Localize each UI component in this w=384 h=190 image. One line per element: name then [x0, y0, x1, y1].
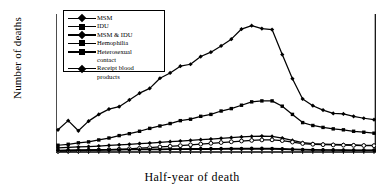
legend-item: IDU	[67, 22, 161, 30]
legend-item: MSM & IDU	[67, 31, 161, 39]
legend-marker-icon	[67, 14, 97, 22]
chart-figure: Number of deaths 02,0004,0006,0008,00010…	[0, 0, 384, 190]
series-idu	[56, 99, 375, 147]
legend-label: Heterosexual	[97, 48, 132, 56]
legend-label: IDU	[97, 22, 109, 30]
y-axis-title: Number of deaths	[11, 0, 23, 123]
legend-marker-icon	[67, 64, 97, 72]
legend-item: Heterosexual	[67, 48, 161, 56]
legend-marker-icon	[67, 39, 97, 47]
legend-item: Receipt blood	[67, 64, 161, 72]
legend-label: Hemophilia	[97, 39, 128, 47]
legend-marker-icon	[67, 22, 97, 30]
legend-label: Receipt blood	[97, 64, 134, 72]
legend-item: Hemophilia	[67, 39, 161, 47]
legend-label: MSM & IDU	[97, 31, 133, 39]
chart-legend: MSM IDU MSM & IDU Hemophilia Heterosexua…	[63, 10, 165, 72]
legend-label-cont: contact	[67, 56, 161, 64]
legend-label: MSM	[97, 14, 112, 22]
legend-item: MSM	[67, 14, 161, 22]
legend-label-cont: products	[67, 73, 161, 81]
x-axis-title: Half-year of death	[0, 170, 384, 185]
legend-marker-icon	[67, 31, 97, 39]
series-msm-idu	[56, 134, 376, 150]
legend-marker-icon	[67, 48, 97, 56]
